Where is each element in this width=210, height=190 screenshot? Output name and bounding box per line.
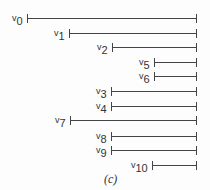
interval-line	[27, 18, 196, 19]
interval-v3: v3	[0, 85, 210, 97]
interval-line	[70, 120, 196, 121]
interval-diagram: v0v1v2v5v6v3v4v7v8v9v10 (c)	[0, 0, 210, 190]
interval-v4: v4	[0, 100, 210, 112]
label-index: 10	[136, 162, 148, 174]
end-tick	[196, 58, 197, 67]
interval-label: v8	[96, 131, 107, 145]
interval-line	[111, 91, 196, 92]
interval-label: v2	[97, 42, 108, 56]
end-tick	[196, 43, 197, 52]
interval-label: v9	[96, 145, 107, 159]
interval-line	[111, 106, 196, 107]
interval-v2: v2	[0, 41, 210, 53]
interval-v8: v8	[0, 130, 210, 142]
interval-v1: v1	[0, 27, 210, 39]
interval-line	[152, 165, 196, 166]
interval-v5: v5	[0, 56, 210, 68]
interval-label: v10	[131, 160, 148, 174]
end-tick	[196, 161, 197, 170]
label-index: 9	[101, 147, 107, 159]
interval-line	[111, 150, 196, 151]
interval-line	[111, 136, 196, 137]
interval-v6: v6	[0, 70, 210, 82]
interval-label: v1	[54, 28, 65, 42]
interval-v10: v10	[0, 159, 210, 171]
end-tick	[196, 72, 197, 81]
end-tick	[196, 116, 197, 125]
interval-line	[112, 47, 196, 48]
end-tick	[196, 146, 197, 155]
interval-label: v4	[96, 101, 107, 115]
figure-caption: (c)	[104, 172, 117, 187]
interval-line	[154, 62, 196, 63]
end-tick	[196, 14, 197, 23]
interval-line	[69, 33, 196, 34]
end-tick	[196, 132, 197, 141]
label-index: 7	[60, 117, 66, 129]
label-index: 0	[17, 15, 23, 27]
interval-v0: v0	[0, 12, 210, 24]
label-index: 3	[101, 88, 107, 100]
interval-v7: v7	[0, 114, 210, 126]
interval-label: v0	[12, 13, 23, 27]
interval-label: v6	[139, 71, 150, 85]
end-tick	[196, 87, 197, 96]
interval-label: v7	[55, 115, 66, 129]
interval-label: v5	[139, 57, 150, 71]
end-tick	[196, 102, 197, 111]
label-index: 6	[144, 73, 150, 85]
interval-line	[154, 76, 196, 77]
end-tick	[196, 29, 197, 38]
interval-label: v3	[96, 86, 107, 100]
label-index: 2	[102, 44, 108, 56]
interval-v9: v9	[0, 144, 210, 156]
